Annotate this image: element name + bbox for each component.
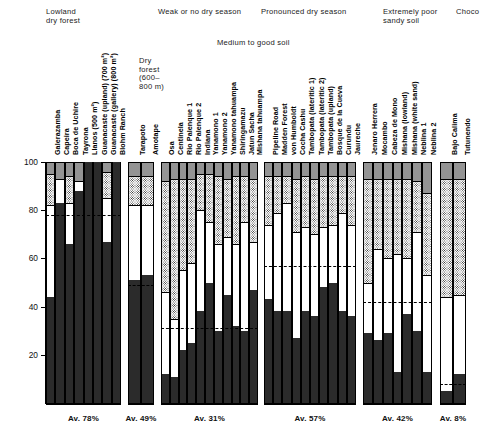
site-label: Guanacaste (gallery) (800 m²) — [110, 53, 118, 155]
bar-segment-grey — [265, 162, 272, 176]
bar[interactable] — [65, 162, 74, 403]
bar-segment-stippled — [274, 176, 281, 212]
y-tick-label: 80 — [16, 205, 38, 215]
bar-segment-grey — [364, 162, 372, 179]
bar[interactable] — [55, 162, 64, 403]
bar[interactable] — [170, 162, 179, 403]
group-average-line — [363, 302, 432, 303]
site-label: Amotape — [152, 124, 160, 155]
bar-segment-white — [180, 270, 187, 350]
bar[interactable] — [232, 162, 241, 403]
bar-segment-stippled — [206, 174, 213, 222]
bar[interactable] — [84, 162, 93, 403]
bar-segment-grey — [188, 162, 195, 179]
bar[interactable] — [453, 162, 466, 403]
bar-segment-grey — [142, 162, 153, 176]
bar[interactable] — [240, 162, 249, 403]
bar-segment-white — [302, 227, 309, 311]
bar[interactable] — [161, 162, 170, 403]
bar-group — [46, 162, 121, 403]
bar[interactable] — [328, 162, 337, 403]
bar[interactable] — [93, 162, 102, 403]
site-label: Tambopata (lateritic 1) — [308, 78, 316, 155]
bar-group — [161, 162, 258, 403]
bar-segment-climbers — [142, 275, 153, 403]
group-heading-pronounced-dry-season: Pronounced dry season — [261, 7, 381, 16]
bar-segment-white — [384, 258, 392, 333]
bar[interactable] — [282, 162, 291, 403]
bar-segment-grey — [129, 162, 140, 176]
bar-segment-white — [75, 181, 82, 191]
y-tick-mark — [41, 210, 45, 211]
bar[interactable] — [264, 162, 273, 403]
bar[interactable] — [46, 162, 55, 403]
bar-segment-white — [241, 222, 248, 330]
site-label: Tambopata (lateritic 2) — [318, 78, 326, 155]
bar-segment-stippled — [215, 176, 222, 243]
bar-segment-stippled — [233, 176, 240, 243]
bar-segment-grey — [66, 162, 73, 176]
bar[interactable] — [402, 162, 412, 403]
bar[interactable] — [187, 162, 196, 403]
bar[interactable] — [196, 162, 205, 403]
bar[interactable] — [249, 162, 258, 403]
group-average-line — [46, 215, 121, 216]
bar[interactable] — [141, 162, 154, 403]
bar[interactable] — [440, 162, 453, 403]
bar[interactable] — [301, 162, 310, 403]
bar-segment-white — [329, 225, 336, 283]
bar[interactable] — [422, 162, 432, 403]
bar-segment-stippled — [283, 176, 290, 203]
bar[interactable] — [112, 162, 121, 403]
bar[interactable] — [273, 162, 282, 403]
bar[interactable] — [373, 162, 383, 403]
bar[interactable] — [205, 162, 214, 403]
group-average-label: Av. 8% — [430, 414, 476, 423]
bar-segment-white — [265, 225, 272, 300]
bar-segment-climbers — [293, 338, 300, 403]
site-label: Curundu — [345, 125, 353, 155]
bar-segment-white — [224, 237, 231, 295]
bar-segment-grey — [348, 162, 355, 176]
bar[interactable] — [128, 162, 141, 403]
bar[interactable] — [393, 162, 403, 403]
site-label: Mishana tahuampa — [256, 90, 264, 155]
bar-segment-climbers — [403, 314, 411, 403]
site-label: Madden Forest — [281, 103, 289, 155]
site-label: Osa — [168, 141, 176, 155]
group-baseline — [161, 403, 258, 405]
bar[interactable] — [102, 162, 111, 403]
group-average-label: Av. 31% — [151, 414, 268, 423]
bar-segment-white — [206, 222, 213, 282]
site-label: Shiringamazu — [239, 107, 247, 155]
bar-segment-white — [293, 232, 300, 338]
bar-segment-grey — [162, 162, 169, 181]
site-label: Centinela — [177, 122, 185, 155]
bar[interactable] — [179, 162, 188, 403]
bar[interactable] — [74, 162, 83, 403]
bar-segment-climbers — [423, 372, 431, 403]
bar[interactable] — [214, 162, 223, 403]
bar[interactable] — [363, 162, 373, 403]
site-label: Tarapoto — [139, 124, 147, 155]
bar[interactable] — [338, 162, 347, 403]
group-average-line — [161, 328, 258, 329]
bar[interactable] — [383, 162, 393, 403]
y-tick-label: 40 — [16, 302, 38, 312]
bar[interactable] — [310, 162, 319, 403]
bar-segment-climbers — [339, 311, 346, 403]
bar-segment-white — [250, 242, 257, 290]
bar-segment-climbers — [274, 311, 281, 403]
site-label: Llanos (500 m²) — [91, 101, 99, 155]
y-tick-mark — [41, 162, 45, 163]
bar-segment-climbers — [250, 290, 257, 403]
group-average-line — [128, 285, 154, 286]
bar[interactable] — [292, 162, 301, 403]
bar[interactable] — [319, 162, 328, 403]
bar[interactable] — [223, 162, 232, 403]
bar[interactable] — [347, 162, 356, 403]
site-label: Jenaro Herrera — [371, 103, 379, 155]
bar[interactable] — [412, 162, 422, 403]
bar-segment-stippled — [188, 179, 195, 263]
bar-segment-grey — [75, 162, 82, 181]
